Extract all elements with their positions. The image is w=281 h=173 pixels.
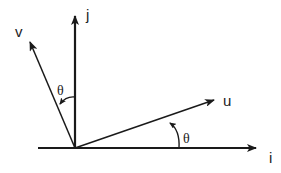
- j-label: j: [85, 6, 89, 23]
- v-label: v: [15, 23, 23, 40]
- theta-label-iu: θ: [183, 131, 190, 146]
- i-label: i: [269, 149, 272, 166]
- rotated-basis-diagram: i j u v θ θ: [0, 0, 281, 173]
- u-vector-arrow: [75, 100, 214, 148]
- u-label: u: [223, 92, 231, 109]
- theta-arc-iu: [170, 123, 179, 148]
- theta-label-jv: θ: [57, 83, 64, 98]
- v-vector-arrow: [30, 42, 75, 148]
